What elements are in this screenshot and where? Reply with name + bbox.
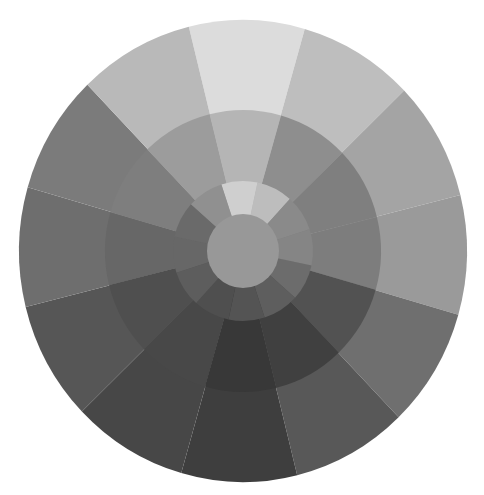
color-wheel — [0, 0, 484, 495]
center-disk — [207, 214, 279, 288]
